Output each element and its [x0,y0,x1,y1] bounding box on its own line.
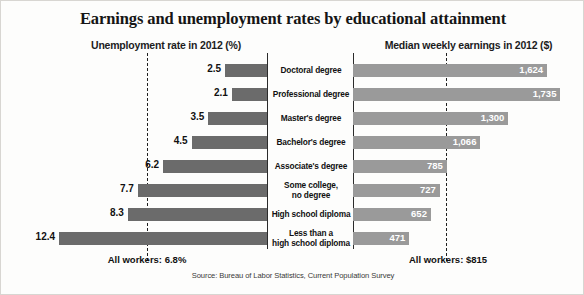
value-label-unemployment: 2.1 [194,87,228,98]
value-label-earnings: 785 [409,160,443,171]
source-note: Source: Bureau of Labor Statistics, Curr… [1,271,584,280]
category-label: Professional degree [269,83,353,107]
value-label-earnings: 1,735 [522,88,556,99]
value-label-unemployment: 4.5 [154,135,188,146]
value-label-unemployment: 8.3 [90,207,124,218]
category-label: High school diploma [269,203,353,227]
value-label-earnings: 727 [402,184,436,195]
value-label-earnings: 652 [393,208,427,219]
bar-unemployment [138,184,267,197]
chart-row: 3.51,300Master's degree [1,107,584,131]
value-label-unemployment: 6.2 [125,159,159,170]
bar-unemployment [208,112,267,125]
bar-unemployment [192,136,267,149]
bar-unemployment [232,88,267,101]
chart-figure: Earnings and unemployment rates by educa… [0,0,584,295]
chart-title: Earnings and unemployment rates by educa… [1,9,584,29]
bar-unemployment [128,208,267,221]
category-label: Bachelor's degree [269,131,353,155]
bar-unemployment [225,64,267,77]
value-label-earnings: 471 [371,232,405,243]
value-label-unemployment: 7.7 [100,183,134,194]
axis-label-unemployment: Unemployment rate in 2012 (%) [61,39,271,51]
chart-row: 2.51,624Doctoral degree [1,59,584,83]
axis-label-earnings: Median weekly earnings in 2012 ($) [361,39,576,51]
value-label-unemployment: 2.5 [187,63,221,74]
value-label-earnings: 1,300 [470,112,504,123]
chart-row: 2.11,735Professional degree [1,83,584,107]
category-label: Doctoral degree [269,59,353,83]
value-label-earnings: 1,624 [509,64,543,75]
chart-row: 6.2785Associate's degree [1,155,584,179]
value-label-unemployment: 12.4 [21,231,55,242]
chart-row: 12.4471Less than ahigh school diploma [1,227,584,251]
value-label-unemployment: 3.5 [170,111,204,122]
category-label: Some college,no degree [269,179,353,203]
plot-area: 2.51,624Doctoral degree2.11,735Professio… [1,53,584,249]
category-label: Master's degree [269,107,353,131]
category-label: Associate's degree [269,155,353,179]
all-workers-earnings: All workers: $815 [359,254,537,265]
chart-row: 7.7727Some college,no degree [1,179,584,203]
chart-row: 4.51,066Bachelor's degree [1,131,584,155]
all-workers-unemployment: All workers: 6.8% [57,254,237,265]
bar-unemployment [163,160,267,173]
chart-row: 8.3652High school diploma [1,203,584,227]
bar-unemployment [59,232,267,245]
value-label-earnings: 1,066 [442,136,476,147]
category-label: Less than ahigh school diploma [269,227,353,251]
